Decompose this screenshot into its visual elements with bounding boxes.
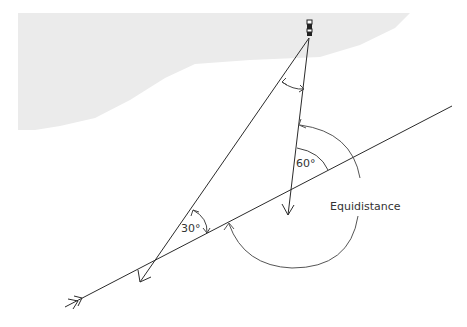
angle-label-60: 60° [296, 157, 316, 170]
diagram-canvas: 30° 60° Equidistance [0, 0, 467, 327]
angle-between-bearings [282, 78, 304, 92]
equidistance-arc [224, 119, 360, 268]
lighthouse-icon [307, 20, 312, 36]
land-mass [18, 13, 410, 130]
second-bearing-line [282, 38, 309, 215]
angle-label-30: 30° [181, 222, 201, 235]
equidistance-label: Equidistance [330, 200, 401, 213]
